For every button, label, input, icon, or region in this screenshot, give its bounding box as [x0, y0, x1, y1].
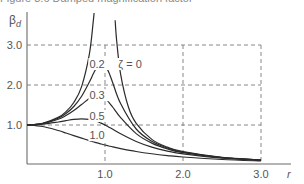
curve-zeta-0-3 — [27, 95, 261, 160]
curve-zeta-0-2 — [27, 63, 261, 160]
figure: Figure 3.6 Damped magnification factor 1… — [0, 0, 304, 184]
y-axis-label-sub: d — [16, 19, 22, 29]
y-axis-label: βd — [9, 13, 22, 29]
curve-label: ζ = 0 — [118, 58, 142, 70]
curves — [27, 13, 261, 161]
curve-zeta-0-branch-2 — [115, 20, 261, 160]
curve-label: 0.5 — [89, 110, 104, 122]
curve-label: 0.2 — [89, 58, 104, 70]
curve-label: 0.3 — [89, 89, 104, 101]
y-tick-label: 3.0 — [7, 39, 22, 51]
x-axis-label: r — [287, 168, 292, 180]
x-tick-label: 1.0 — [97, 168, 112, 180]
figure-caption: Figure 3.6 Damped magnification factor — [0, 0, 193, 4]
x-tick-label: 2.0 — [175, 168, 190, 180]
y-tick-label: 2.0 — [7, 79, 22, 91]
curve-zeta-0-branch-1 — [27, 13, 94, 125]
axes — [27, 12, 291, 164]
curve-label: 1.0 — [89, 129, 104, 141]
curve-zeta-1 — [27, 125, 261, 161]
x-tick-label: 3.0 — [253, 168, 268, 180]
y-tick-label: 1.0 — [7, 119, 22, 131]
damped-magnification-chart: 1.02.03.01.02.03.0 0.2ζ = 00.30.51.0 βd … — [0, 0, 304, 184]
